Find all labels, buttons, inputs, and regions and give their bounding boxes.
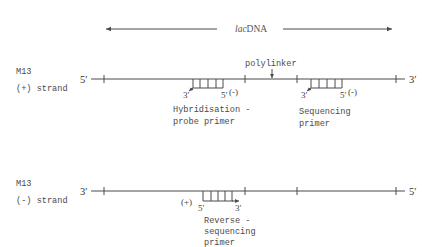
primer-5-end: 5′ <box>198 203 205 213</box>
primer-3-end: 3′ <box>301 90 308 100</box>
primer-label: Reverse - <box>204 216 250 226</box>
top-strand: M13 (+) strand 5′ 3′ 3′ 5′ (-) Hybridisa… <box>16 67 417 129</box>
lac-dna-region: lacDNA <box>106 24 392 34</box>
primer-label: primer <box>299 119 330 129</box>
primer-arrow-icon <box>189 88 193 91</box>
bottom-strand-name: M13 <box>16 179 31 189</box>
polylinker-label: polylinker <box>245 59 297 69</box>
primer-5-end: 5′ <box>221 90 228 100</box>
bottom-strand: M13 (-) strand 3′ 5′ (+) 5′ 3′ Reverse -… <box>16 179 417 247</box>
primer-3-end: 3′ <box>183 90 190 100</box>
top-strand-polarity: (+) strand <box>16 84 68 94</box>
primer-5-end: 5′ <box>340 90 347 100</box>
primer-polarity: (-) <box>229 87 238 97</box>
bottom-strand-left-end: 3′ <box>80 186 88 197</box>
top-strand-right-end: 3′ <box>409 74 417 85</box>
lac-dna-label: lacDNA <box>235 24 267 34</box>
top-strand-left-end: 5′ <box>80 74 88 85</box>
primer-label: Hybridisation - <box>173 105 250 115</box>
hybridisation-probe-primer: 3′ 5′ (-) Hybridisation - probe primer <box>173 79 250 127</box>
primer-polarity: (-) <box>348 87 357 97</box>
primer-3-end: 3′ <box>235 203 242 213</box>
bottom-strand-polarity: (-) strand <box>16 196 68 206</box>
primer-arrow-icon <box>307 88 311 91</box>
primer-label: primer <box>204 238 235 247</box>
primer-polarity: (+) <box>181 197 192 207</box>
sequencing-primer: 3′ 5′ (-) Sequencing primer <box>299 79 357 129</box>
primer-label: sequencing <box>204 227 256 237</box>
top-strand-name: M13 <box>16 67 31 77</box>
primer-label: Sequencing <box>299 107 351 117</box>
m13-primer-diagram: lacDNA polylinker M13 (+) strand 5′ 3′ 3… <box>0 0 433 247</box>
primer-label: probe primer <box>173 117 235 127</box>
bottom-strand-right-end: 5′ <box>409 186 417 197</box>
reverse-sequencing-primer: (+) 5′ 3′ Reverse - sequencing primer <box>181 191 256 247</box>
